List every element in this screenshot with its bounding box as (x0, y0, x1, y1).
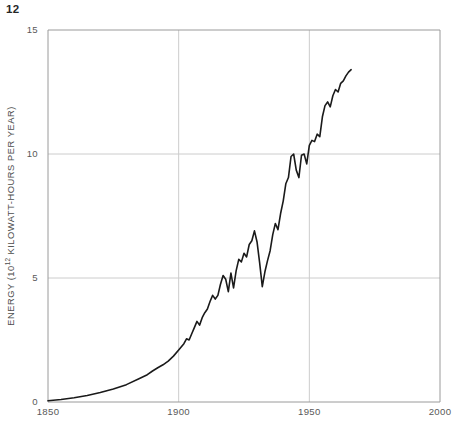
y-tick-label-5: 5 (12, 272, 38, 283)
page-root: 12 ENER (0, 0, 454, 426)
y-tick-label-15: 15 (12, 24, 38, 35)
x-tick-label-1950: 1950 (288, 406, 330, 417)
chart-canvas (0, 0, 454, 426)
x-tick-label-2000: 2000 (419, 406, 454, 417)
energy-line-chart: ENERGY (1012 KILOWATT-HOURS PER YEAR) 15… (0, 0, 454, 426)
plot-background (48, 30, 440, 402)
x-tick-label-1850: 1850 (27, 406, 69, 417)
y-tick-label-10: 10 (12, 148, 38, 159)
x-tick-label-1900: 1900 (158, 406, 200, 417)
